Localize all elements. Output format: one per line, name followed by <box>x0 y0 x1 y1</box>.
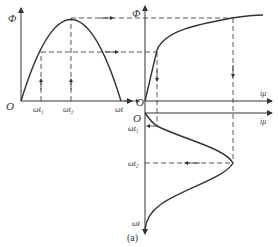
figure-caption: (a) <box>127 232 138 244</box>
right-top-origin: O <box>136 96 144 108</box>
right-y-label: Φ <box>132 7 141 19</box>
current-time-plot: O iμ ωt₁ ωt₂ ωt <box>128 112 272 234</box>
tick-wt-bottom: ωt <box>132 219 141 228</box>
tick-wt1: ωt₁ <box>33 105 44 114</box>
magnetizing-current-curve <box>145 113 233 230</box>
magnetization-curve-plot: Φ O iμ <box>132 6 272 113</box>
bottom-x-label: iμ <box>260 117 266 126</box>
bh-curve <box>145 15 263 101</box>
right-top-x-label: iμ <box>260 89 266 98</box>
left-flux-time-plot: Φ O ωt₁ ωt₂ ωt <box>6 8 132 114</box>
magnetization-current-diagram: Φ O ωt₁ ωt₂ ωt Φ O iμ O iμ ωt₁ ωt₂ ωt (a… <box>0 0 278 247</box>
tick-wt2: ωt₂ <box>63 105 74 114</box>
left-origin: O <box>6 100 14 112</box>
tick-wt1-bottom: ωt₁ <box>128 124 139 133</box>
bottom-origin: O <box>133 112 141 124</box>
tick-wt2-bottom: ωt₂ <box>128 159 139 168</box>
left-y-label: Φ <box>8 12 17 24</box>
tick-wt: ωt <box>115 105 124 114</box>
